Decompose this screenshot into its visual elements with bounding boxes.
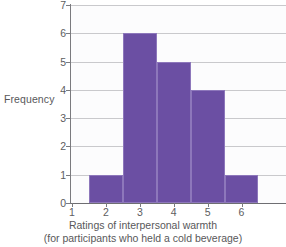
x-axis-caption-line2: (for participants who held a cold bevera… [0, 232, 286, 245]
x-axis-caption: Ratings of interpersonal warmth (for par… [0, 219, 286, 244]
bar-2 [89, 175, 123, 203]
x-tick-label-6: 6 [232, 206, 252, 218]
bar-4 [157, 62, 191, 203]
x-tick-label-5: 5 [198, 206, 218, 218]
bar-6 [225, 175, 259, 203]
y-tick-mark-1 [66, 175, 71, 176]
y-tick-mark-2 [66, 146, 71, 147]
x-axis-caption-line1: Ratings of interpersonal warmth [69, 219, 217, 231]
y-tick-mark-4 [66, 90, 71, 91]
y-tick-label-5: 5 [52, 57, 66, 67]
y-tick-mark-7 [66, 5, 71, 6]
x-tick-label-4: 4 [164, 206, 184, 218]
y-tick-label-4: 4 [52, 85, 66, 95]
y-tick-mark-5 [66, 62, 71, 63]
y-tick-mark-0 [66, 203, 71, 204]
y-tick-label-6: 6 [52, 28, 66, 38]
y-tick-label-2: 2 [52, 141, 66, 151]
bar-3 [123, 33, 157, 203]
y-tick-label-7: 7 [52, 0, 66, 10]
y-tick-mark-3 [66, 118, 71, 119]
x-tick-label-3: 3 [130, 206, 150, 218]
histogram-figure: Frequency 01234567 123456 Ratings of int… [0, 0, 286, 247]
y-tick-label-0: 0 [52, 198, 66, 208]
y-tick-label-1: 1 [52, 170, 66, 180]
gridline-y-0 [70, 203, 286, 204]
y-tick-mark-6 [66, 33, 71, 34]
bar-5 [191, 90, 225, 203]
gridline-y-7 [70, 5, 286, 6]
x-tick-label-2: 2 [96, 206, 116, 218]
y-tick-label-3: 3 [52, 113, 66, 123]
gridline-y-6 [70, 33, 286, 34]
